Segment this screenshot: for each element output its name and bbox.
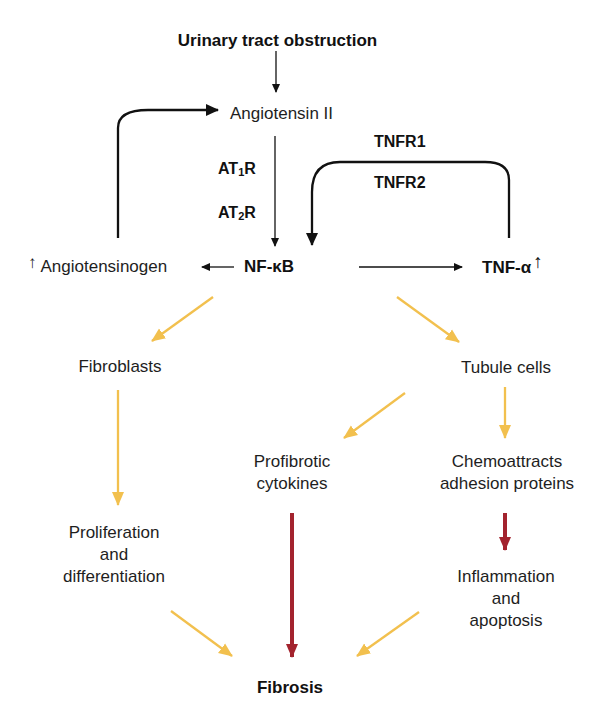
node-label-line: cytokines (236, 473, 348, 495)
label-text: AT (218, 160, 238, 177)
node-proliferation-differentiation: Proliferation and differentiation (48, 522, 180, 588)
node-label: Fibroblasts (78, 357, 161, 376)
node-chemoattracts-adhesion-proteins: Chemoattracts adhesion proteins (425, 451, 589, 495)
node-nfkb: NF-κB (244, 256, 294, 278)
node-tubule-cells: Tubule cells (448, 357, 564, 379)
label-text: R (244, 204, 256, 221)
node-label-line: Profibrotic (236, 451, 348, 473)
label-text: TNFR1 (374, 133, 426, 150)
node-label-line: apoptosis (440, 610, 572, 632)
node-label: Fibrosis (257, 678, 323, 697)
node-angiotensin-ii: Angiotensin II (230, 103, 360, 125)
arrow-proliferation-to-fibrosis (171, 611, 232, 656)
node-label-line: Inflammation (440, 566, 572, 588)
node-label: TNF-α (482, 258, 531, 277)
arrow-tubule-to-profibrotic (344, 393, 405, 438)
arrow-nfkb-to-fibroblasts (152, 297, 213, 341)
node-label: Angiotensin II (230, 104, 333, 123)
label-at1r: AT1R (218, 160, 256, 178)
arrow-nfkb-to-tubule (397, 297, 459, 342)
node-angiotensinogen: ↑Angiotensinogen (28, 256, 167, 278)
node-label: NF-κB (244, 257, 294, 276)
node-label-line: adhesion proteins (425, 473, 589, 495)
node-label-line: and (48, 544, 180, 566)
label-text: AT (218, 204, 238, 221)
arrow-angiotensinogen-feedback (118, 110, 218, 238)
label-at2r: AT2R (218, 204, 256, 222)
node-label: Angiotensinogen (41, 257, 168, 276)
label-tnfr2: TNFR2 (374, 174, 426, 192)
node-label: Tubule cells (461, 358, 551, 377)
increase-arrow-icon: ↑ (28, 253, 37, 272)
node-inflammation-apoptosis: Inflammation and apoptosis (440, 566, 572, 632)
node-tnf-alpha: TNF-α↑ (482, 256, 543, 279)
node-urinary-tract-obstruction: Urinary tract obstruction (170, 30, 385, 52)
label-text: TNFR2 (374, 174, 426, 191)
node-fibrosis: Fibrosis (240, 677, 340, 699)
node-label-line: differentiation (48, 566, 180, 588)
node-fibroblasts: Fibroblasts (60, 356, 180, 378)
node-label-line: Chemoattracts (425, 451, 589, 473)
increase-arrow-icon: ↑ (533, 251, 543, 272)
node-label-line: and (440, 588, 572, 610)
node-profibrotic-cytokines: Profibrotic cytokines (236, 451, 348, 495)
fibrosis-pathway-diagram: Urinary tract obstruction Angiotensin II… (0, 0, 612, 714)
arrow-inflammation-to-fibrosis (357, 612, 419, 656)
label-text: R (244, 160, 256, 177)
node-label-line: Proliferation (48, 522, 180, 544)
label-tnfr1: TNFR1 (374, 133, 426, 151)
node-label: Urinary tract obstruction (178, 31, 377, 50)
